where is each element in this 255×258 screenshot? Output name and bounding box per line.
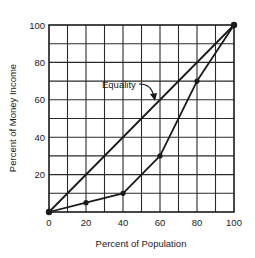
data-point-marker [157, 153, 162, 158]
data-point-marker [83, 200, 88, 205]
y-tick-label: 20 [34, 169, 45, 180]
x-tick-label: 20 [81, 217, 92, 228]
y-axis-ticks: 20406080100 [29, 20, 45, 181]
x-tick-label: 0 [46, 217, 51, 228]
data-point-marker [194, 79, 199, 84]
data-point-marker [46, 209, 52, 215]
x-axis-label: Percent of Population [96, 238, 187, 249]
x-axis-ticks: 020406080100 [46, 217, 242, 228]
y-axis-label: Percent of Money Income [7, 64, 18, 172]
x-tick-label: 60 [155, 217, 166, 228]
lorenz-chart: 020406080100 20406080100 Percent of Popu… [0, 0, 255, 258]
data-point-marker [231, 22, 237, 28]
y-tick-label: 60 [34, 94, 45, 105]
data-point-marker [120, 191, 125, 196]
y-tick-label: 80 [34, 57, 45, 68]
x-tick-label: 100 [226, 217, 242, 228]
x-tick-label: 80 [192, 217, 203, 228]
y-tick-label: 100 [29, 20, 45, 31]
equality-label: Equality [102, 79, 136, 90]
x-tick-label: 40 [118, 217, 129, 228]
equality-annotation: Equality [102, 79, 157, 101]
y-tick-label: 40 [34, 132, 45, 143]
